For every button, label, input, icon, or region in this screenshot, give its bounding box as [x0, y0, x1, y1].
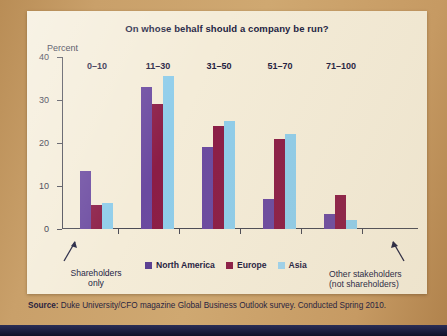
bar-group-11-30 [141, 76, 174, 229]
x-category-label-3: 51–70 [267, 61, 292, 71]
legend-label: North America [156, 260, 215, 270]
bar-europe[interactable] [274, 139, 285, 229]
bar-asia[interactable] [102, 203, 113, 229]
x-separator-3 [240, 229, 241, 234]
bar-europe[interactable] [213, 126, 224, 229]
legend-item-europe[interactable]: Europe [226, 260, 267, 270]
legend-item-north-america[interactable]: North America [145, 260, 215, 270]
x-category-label-4: 71–100 [326, 61, 356, 71]
bar-asia[interactable] [224, 121, 235, 229]
y-tick-0: 0 [57, 229, 62, 230]
bar-north-america[interactable] [141, 87, 152, 229]
y-tick-label-20: 20 [39, 138, 49, 148]
y-tick-label-40: 40 [39, 52, 49, 62]
x-category-label-1: 11–30 [146, 61, 171, 71]
legend-label: Europe [237, 260, 267, 270]
bar-group-0-10 [80, 171, 113, 229]
plot-area: 0 10 20 30 40 [62, 57, 382, 229]
page-background: On whose behalf should a company be run?… [0, 0, 447, 336]
legend-label: Asia [289, 260, 307, 270]
right-arrow-icon [390, 241, 408, 263]
bar-europe[interactable] [91, 205, 102, 229]
left-axis-annotation: Shareholders only [53, 268, 139, 289]
bar-asia[interactable] [346, 220, 357, 229]
legend-swatch-icon [145, 262, 152, 269]
chart-legend: North America Europe Asia [145, 260, 307, 270]
y-tick-40: 40 [57, 57, 62, 58]
y-tick-label-0: 0 [44, 224, 49, 234]
chart-title: On whose behalf should a company be run? [27, 23, 427, 34]
source-label: Source: [28, 301, 58, 310]
x-category-label-2: 31–50 [206, 61, 231, 71]
right-axis-annotation: Other stakeholders (not shareholders) [329, 269, 447, 290]
source-text: Duke University/CFO magazine Global Busi… [58, 301, 386, 310]
bar-north-america[interactable] [324, 214, 335, 229]
x-separator-2 [179, 229, 180, 234]
bar-europe[interactable] [335, 195, 346, 229]
page-bottom-strip [0, 325, 447, 336]
bar-europe[interactable] [152, 104, 163, 229]
x-separator-4 [301, 229, 302, 234]
y-tick-10: 10 [57, 186, 62, 187]
bar-north-america[interactable] [80, 171, 91, 229]
figure-panel: On whose behalf should a company be run?… [27, 11, 427, 294]
bar-north-america[interactable] [202, 147, 213, 229]
y-axis-label: Percent [47, 43, 78, 53]
source-note: Source: Duke University/CFO magazine Glo… [28, 301, 435, 311]
y-tick-20: 20 [57, 143, 62, 144]
bar-group-51-70 [263, 134, 296, 229]
x-separator-1 [118, 229, 119, 234]
legend-swatch-icon [226, 262, 233, 269]
bar-asia[interactable] [163, 76, 174, 229]
x-category-label-0: 0–10 [87, 61, 107, 71]
y-tick-label-10: 10 [39, 181, 49, 191]
left-arrow-icon [61, 241, 79, 263]
bar-group-71-100 [324, 195, 357, 229]
y-tick-label-30: 30 [39, 95, 49, 105]
bar-group-31-50 [202, 121, 235, 229]
bar-north-america[interactable] [263, 199, 274, 229]
legend-item-asia[interactable]: Asia [278, 260, 307, 270]
x-separator-5 [362, 229, 363, 234]
y-tick-30: 30 [57, 100, 62, 101]
legend-swatch-icon [278, 262, 285, 269]
y-axis-line [62, 57, 63, 229]
bar-asia[interactable] [285, 134, 296, 229]
